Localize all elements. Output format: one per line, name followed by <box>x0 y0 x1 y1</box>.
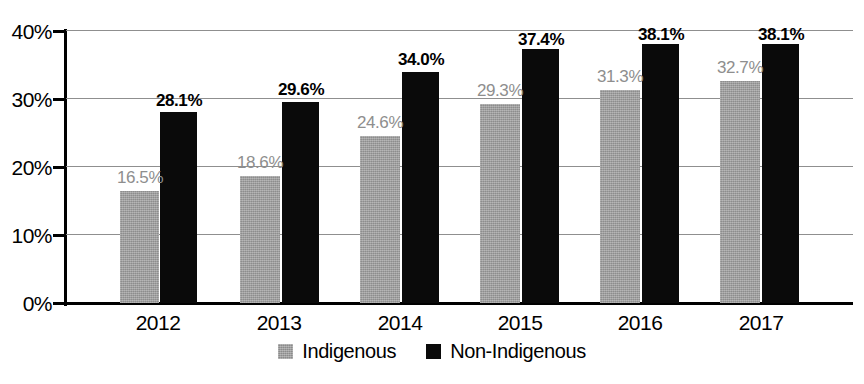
bar-value-indigenous-2014: 24.6% <box>350 114 410 131</box>
x-axis-label-2015: 2015 <box>480 312 560 334</box>
legend-swatch-non-indigenous-icon <box>426 344 441 359</box>
x-axis-label-2012: 2012 <box>118 312 198 334</box>
bar-value-indigenous-2012: 16.5% <box>110 169 170 186</box>
bar-value-indigenous-2013: 18.6% <box>230 154 290 171</box>
legend-item-indigenous[interactable]: Indigenous <box>278 341 396 361</box>
y-axis-label-0: 0% <box>0 293 52 314</box>
legend-item-non-indigenous[interactable]: Non-Indigenous <box>426 341 586 361</box>
x-axis-label-2013: 2013 <box>239 312 319 334</box>
bar-value-indigenous-2016: 31.3% <box>590 68 650 85</box>
bar-value-nonindigenous-2016: 38.1% <box>631 26 691 43</box>
bar-value-nonindigenous-2014: 34.0% <box>391 51 451 68</box>
legend-label-indigenous: Indigenous <box>302 341 396 361</box>
bar-nonindigenous-2017 <box>762 44 799 303</box>
y-axis-tick-40 <box>53 30 65 33</box>
y-axis-label-40: 40% <box>0 21 52 42</box>
bar-indigenous-2013 <box>240 176 280 303</box>
y-axis-tick-30 <box>53 98 65 101</box>
x-axis-label-2017: 2017 <box>721 312 801 334</box>
x-axis-label-2016: 2016 <box>600 312 680 334</box>
gridline-40 <box>66 30 853 31</box>
bar-value-indigenous-2017: 32.7% <box>710 59 770 76</box>
bar-value-nonindigenous-2017: 38.1% <box>751 26 811 43</box>
bar-value-indigenous-2015: 29.3% <box>470 82 530 99</box>
bar-indigenous-2012 <box>120 191 159 303</box>
y-axis-tick-0 <box>53 302 65 305</box>
plot-area: 16.5% 28.1% 18.6% 29.6% 24.6% 34.0% 29.3… <box>66 30 853 303</box>
bar-nonindigenous-2013 <box>282 102 319 303</box>
bar-indigenous-2015 <box>480 104 520 303</box>
y-axis-label-30: 30% <box>0 89 52 110</box>
y-axis-tick-10 <box>53 234 65 237</box>
bar-indigenous-2017 <box>720 81 760 303</box>
bar-value-nonindigenous-2012: 28.1% <box>149 92 209 109</box>
bar-indigenous-2016 <box>600 90 640 303</box>
bar-nonindigenous-2012 <box>160 112 197 303</box>
chart-legend: Indigenous Non-Indigenous <box>0 341 864 361</box>
bar-value-nonindigenous-2015: 37.4% <box>511 31 571 48</box>
y-axis-label-10: 10% <box>0 225 52 246</box>
bar-value-nonindigenous-2013: 29.6% <box>271 81 331 98</box>
bar-indigenous-2014 <box>360 136 400 303</box>
legend-label-non-indigenous: Non-Indigenous <box>450 341 586 361</box>
bar-chart: 40% 30% 20% 10% 0% 16.5% 28.1% 18.6% 29.… <box>0 0 864 384</box>
legend-swatch-indigenous-icon <box>278 344 293 359</box>
x-axis-label-2014: 2014 <box>360 312 440 334</box>
bar-nonindigenous-2014 <box>402 72 439 303</box>
y-axis-label-20: 20% <box>0 157 52 178</box>
y-axis-tick-20 <box>53 166 65 169</box>
